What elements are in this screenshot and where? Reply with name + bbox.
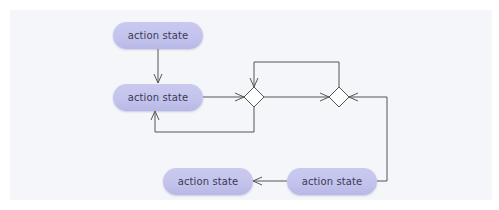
- edge-decision1-to-decision2: [264, 93, 329, 101]
- action-state-4[interactable]: action state: [287, 168, 377, 195]
- action-state-1[interactable]: action state: [113, 22, 203, 49]
- action-state-3[interactable]: action state: [163, 168, 253, 195]
- edge-decision2-to-decision1: [250, 62, 339, 87]
- decision1-diamond[interactable]: [244, 87, 264, 107]
- action-state-2[interactable]: action state: [113, 84, 203, 111]
- action-state-2-label: action state: [128, 92, 189, 103]
- action-state-4-label: action state: [302, 176, 363, 187]
- action-state-1-label: action state: [128, 30, 189, 41]
- edge-action1-to-action2: [154, 48, 162, 83]
- edge-action2-to-decision1: [203, 93, 244, 101]
- decision2-diamond[interactable]: [329, 87, 349, 107]
- edge-action4-to-action3: [253, 177, 287, 185]
- action-state-3-label: action state: [178, 176, 239, 187]
